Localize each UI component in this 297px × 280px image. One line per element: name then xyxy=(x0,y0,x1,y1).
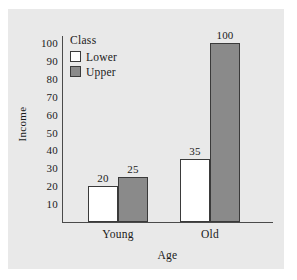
bar-value-label: 100 xyxy=(201,29,249,41)
legend-label: Lower xyxy=(86,51,117,63)
legend-entries: LowerUpper xyxy=(70,49,142,79)
bar-chart-figure: 102030405060708090100 Income YoungOld Ag… xyxy=(0,0,297,280)
legend-swatch-lower xyxy=(70,51,81,62)
bar-old-upper xyxy=(210,43,240,222)
legend-entry-lower: Lower xyxy=(70,49,142,64)
legend-label: Upper xyxy=(86,66,116,78)
bar-young-lower xyxy=(88,186,118,222)
bar-series-layer: 202535100 xyxy=(0,0,297,280)
bar-value-label: 25 xyxy=(109,163,157,175)
bar-old-lower xyxy=(180,159,210,222)
legend-entry-upper: Upper xyxy=(70,64,142,79)
legend: Class LowerUpper xyxy=(70,34,142,79)
bar-young-upper xyxy=(118,177,148,222)
legend-title: Class xyxy=(70,34,142,46)
legend-swatch-upper xyxy=(70,66,81,77)
